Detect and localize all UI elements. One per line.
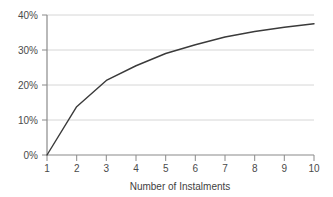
y-tick-label-20: 20% bbox=[18, 80, 38, 91]
x-tick-label-4: 4 bbox=[133, 163, 139, 174]
x-tick-label-6: 6 bbox=[193, 163, 199, 174]
x-tick-label-10: 10 bbox=[308, 163, 320, 174]
line-chart: 40% 30% 20% 10% 0% 1 2 3 4 5 6 7 bbox=[0, 0, 333, 197]
x-tick-label-1: 1 bbox=[44, 163, 50, 174]
x-tick-label-3: 3 bbox=[104, 163, 110, 174]
chart-container: 40% 30% 20% 10% 0% 1 2 3 4 5 6 7 bbox=[0, 0, 333, 197]
y-tick-label-0: 0% bbox=[24, 150, 39, 161]
y-tick-label-40: 40% bbox=[18, 10, 38, 21]
x-tick-label-5: 5 bbox=[163, 163, 169, 174]
x-tick-label-8: 8 bbox=[252, 163, 258, 174]
x-tick-label-2: 2 bbox=[74, 163, 80, 174]
x-tick-label-7: 7 bbox=[222, 163, 228, 174]
y-tick-label-10: 10% bbox=[18, 115, 38, 126]
y-tick-label-30: 30% bbox=[18, 45, 38, 56]
x-axis-title: Number of Instalments bbox=[130, 181, 231, 192]
x-tick-label-9: 9 bbox=[282, 163, 288, 174]
